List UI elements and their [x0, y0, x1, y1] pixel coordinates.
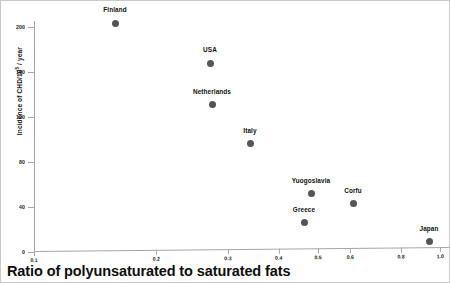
- y-axis-tick-label: 0: [0, 249, 25, 255]
- x-axis-tick: [440, 247, 441, 252]
- x-axis-tick: [156, 250, 157, 255]
- x-axis-tick-label: 1.0: [437, 253, 444, 259]
- plot-area: 04080120160200 0.10.20.30.40.50.60.81.0 …: [1, 1, 450, 283]
- data-point-label: USA: [203, 46, 217, 53]
- x-axis-tick-label: 0.6: [347, 254, 354, 260]
- data-point: [207, 60, 214, 67]
- x-axis-tick-label: 0.8: [397, 253, 404, 259]
- x-axis-tick: [34, 251, 35, 256]
- y-axis-tick: [28, 207, 34, 208]
- x-axis-tick-label: 0.5: [314, 254, 321, 260]
- data-point-label: Italy: [243, 127, 256, 134]
- data-point: [426, 238, 433, 245]
- data-point-label: Corfu: [344, 187, 362, 194]
- data-point: [350, 200, 357, 207]
- data-point: [301, 219, 308, 226]
- data-point: [112, 20, 119, 27]
- x-axis-title: Ratio of polyunsaturated to saturated fa…: [7, 263, 290, 279]
- y-axis-tick: [28, 72, 34, 73]
- y-axis-tick-label: 200: [0, 24, 25, 30]
- y-axis-title-exponent: 5: [15, 67, 20, 70]
- x-axis-tick: [350, 248, 351, 253]
- x-axis-tick: [318, 248, 319, 253]
- y-axis-tick-label: 40: [0, 204, 25, 210]
- x-axis-tick-label: 0.3: [224, 255, 231, 261]
- x-axis-tick: [279, 249, 280, 254]
- data-point: [308, 190, 315, 197]
- data-point-label: Netherlands: [193, 88, 231, 95]
- data-point-label: Finland: [103, 6, 126, 13]
- y-axis-tick: [28, 162, 34, 163]
- chart-figure: 04080120160200 0.10.20.30.40.50.60.81.0 …: [0, 0, 450, 283]
- y-axis-tick-label: 80: [0, 159, 25, 165]
- x-axis-tick-label: 0.4: [275, 255, 282, 261]
- x-axis-tick-label: 0.2: [153, 256, 160, 262]
- y-axis-line: [34, 21, 35, 252]
- y-axis-tick: [28, 27, 34, 28]
- data-point-label: Japan: [420, 225, 439, 232]
- data-point: [209, 101, 216, 108]
- data-point-label: Greece: [293, 206, 315, 213]
- y-axis-title: Incidence of CHD/105 / year: [15, 31, 23, 151]
- x-axis-tick: [401, 247, 402, 252]
- data-point: [247, 140, 254, 147]
- y-axis-tick: [28, 117, 34, 118]
- data-point-label: Yuogoslavia: [292, 177, 330, 184]
- x-axis-tick: [228, 249, 229, 254]
